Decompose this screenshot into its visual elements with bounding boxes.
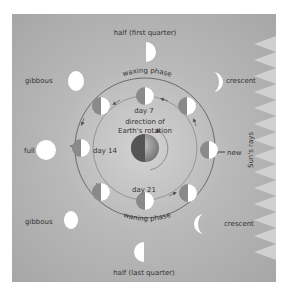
- label-last-quarter: half (last quarter): [113, 269, 175, 277]
- orbit-arrow: [114, 100, 120, 104]
- label-rotation: Earth's rotation: [118, 127, 172, 135]
- moon-first-quarter: [146, 42, 156, 62]
- earth: [131, 134, 159, 162]
- label-crescent-top: crescent: [226, 77, 256, 85]
- moon-gibbous-top: [68, 71, 84, 91]
- label-waning: waning phase: [122, 211, 171, 223]
- moon-gibbous-bottom: [64, 211, 78, 229]
- label-full: full: [24, 147, 35, 155]
- sun-rays-label: Sun's rays: [247, 132, 255, 168]
- label-day14: day 14: [93, 147, 118, 155]
- label-gibbous-bottom: gibbous: [25, 218, 53, 226]
- orbit-arrow: [162, 99, 168, 101]
- label-waxing: waxing phase: [122, 67, 173, 79]
- moon-phases-diagram: Sun's rays: [0, 0, 284, 296]
- moon-full: [36, 140, 56, 160]
- label-first-quarter: half (first quarter): [114, 29, 177, 37]
- label-direction: direction of: [125, 118, 165, 126]
- orbit-arrow: [194, 120, 196, 126]
- label-new: new: [227, 149, 242, 157]
- moon-last-quarter: [134, 242, 144, 262]
- sun-rays: [254, 36, 276, 260]
- orbit-arrow: [82, 118, 84, 124]
- moon-crescent-top: [213, 72, 223, 92]
- moon-crescent-bottom: [194, 214, 204, 234]
- label-day21: day 21: [132, 186, 156, 194]
- label-gibbous-top: gibbous: [25, 77, 53, 85]
- label-crescent-bottom: crescent: [224, 220, 254, 228]
- label-day7: day 7: [134, 107, 154, 115]
